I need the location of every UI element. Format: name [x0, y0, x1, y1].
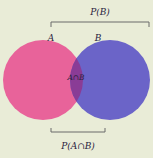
venn-diagram: P(B) P(A∩B) A B A∩B: [0, 0, 153, 158]
set-b-label: B: [94, 33, 102, 43]
top-bracket-label: P(B): [89, 7, 110, 17]
intersection-label: A∩B: [66, 73, 85, 82]
bottom-bracket: [51, 128, 105, 132]
set-a-label: A: [47, 33, 55, 43]
top-bracket: [51, 22, 149, 27]
bottom-bracket-label: P(A∩B): [60, 141, 95, 151]
